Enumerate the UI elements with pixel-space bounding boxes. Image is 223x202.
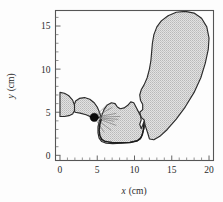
x-tick-label: 5	[95, 165, 100, 175]
x-tick-label: 15	[167, 165, 177, 175]
figure-container: 05101520 051015 x(cm) y(cm)	[0, 0, 223, 202]
y-tick-label: 15	[41, 21, 51, 31]
svg-text:x(cm): x(cm)	[120, 186, 146, 197]
y-tick-label: 0	[46, 151, 51, 161]
x-tick-label: 20	[204, 165, 214, 175]
source-marker	[90, 113, 98, 121]
annotation-markers	[90, 113, 98, 121]
x-axis-label: x(cm)	[120, 186, 146, 197]
svg-text:y(cm): y(cm)	[6, 73, 17, 99]
x-tick-label: 10	[130, 165, 140, 175]
plot-canvas: 05101520 051015 x(cm) y(cm)	[0, 0, 223, 202]
y-tick-label: 10	[41, 65, 51, 75]
x-tick-label: 0	[58, 165, 63, 175]
y-tick-label: 5	[46, 108, 51, 118]
y-axis-label: y(cm)	[6, 73, 17, 99]
